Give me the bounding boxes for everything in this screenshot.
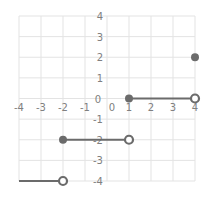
- step-function-chart: -4-3-2-10123443210-1-2-3-4: [0, 0, 211, 198]
- isolated-point: [191, 53, 199, 61]
- x-tick-label: -4: [14, 102, 24, 113]
- y-tick-label: -4: [93, 176, 103, 187]
- segment-start-point: [59, 136, 67, 144]
- x-tick-label: -1: [80, 102, 90, 113]
- x-tick-label: 2: [148, 102, 154, 113]
- x-tick-label: -3: [36, 102, 46, 113]
- segment-end-point: [125, 136, 133, 144]
- y-tick-label: 0: [95, 94, 101, 105]
- y-tick-label: -3: [93, 155, 103, 166]
- y-tick-label: -1: [93, 114, 103, 125]
- segment-end-point: [191, 95, 199, 103]
- x-tick-label: 1: [126, 102, 132, 113]
- y-tick-label: 1: [97, 73, 103, 84]
- y-tick-label: 3: [97, 32, 103, 43]
- y-tick-label: 4: [97, 11, 103, 22]
- segment-start-point: [125, 95, 133, 103]
- x-tick-label: -2: [58, 102, 68, 113]
- x-tick-label: 3: [170, 102, 176, 113]
- y-tick-label: 2: [97, 52, 103, 63]
- x-tick-label: 0: [109, 102, 115, 113]
- segment-end-point: [59, 177, 67, 185]
